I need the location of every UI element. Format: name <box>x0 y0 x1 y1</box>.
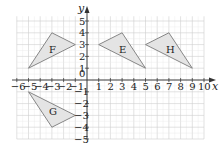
x-tick-label: 1 <box>96 81 102 92</box>
axes: x y 0 <box>12 2 219 139</box>
coordinate-grid-diagram: FEHG x y 0 −6−5−4−3−2−11234567891054321−… <box>0 0 219 143</box>
triangle-label: E <box>119 44 126 55</box>
x-tick-label: 10 <box>198 81 211 92</box>
x-tick-label: 2 <box>107 81 113 92</box>
triangle-label: H <box>166 44 175 55</box>
y-tick-label: 4 <box>79 27 85 38</box>
triangle-label: F <box>49 44 56 55</box>
x-axis-label: x <box>212 80 219 93</box>
y-axis-arrow-icon <box>85 6 90 13</box>
x-tick-label: 7 <box>166 81 172 92</box>
y-tick-label: 1 <box>79 63 85 74</box>
x-tick-label: 6 <box>154 81 160 92</box>
y-tick-label: −2 <box>74 98 89 109</box>
x-tick-label: 9 <box>189 81 195 92</box>
grid <box>17 16 204 139</box>
y-tick-label: −3 <box>74 110 89 121</box>
y-tick-label: −1 <box>74 86 89 97</box>
x-tick-label: 8 <box>178 81 184 92</box>
x-tick-label: 3 <box>119 81 125 92</box>
y-tick-label: −5 <box>74 134 89 144</box>
y-tick-label: 5 <box>79 16 85 27</box>
y-axis-label: y <box>77 2 85 15</box>
triangle-label: G <box>49 106 57 117</box>
y-tick-label: 2 <box>79 51 85 62</box>
y-tick-label: −4 <box>74 122 89 133</box>
x-tick-label: 4 <box>131 81 137 92</box>
y-tick-label: 3 <box>79 39 85 50</box>
x-tick-label: 5 <box>143 81 149 92</box>
